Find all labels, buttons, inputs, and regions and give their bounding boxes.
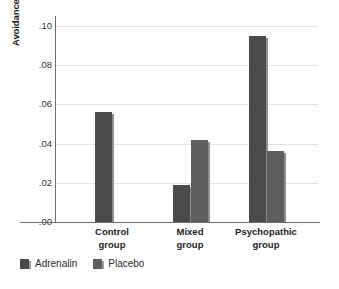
gridline (56, 65, 318, 66)
y-axis-line (55, 16, 56, 223)
bar-edge-highlight (208, 142, 211, 222)
bar-placebo-mixed-group (191, 140, 208, 222)
y-axis-tick-label: .02 (26, 178, 52, 188)
bar-edge-highlight (284, 153, 287, 222)
plot-area (56, 16, 318, 222)
legend-label: Adrenalin (35, 258, 77, 269)
avoidance-learning-bar-chart: Avoidance learning score .00.02.04.06.08… (0, 0, 339, 289)
bar-adrenalin-control-group (95, 112, 112, 222)
x-axis-line (20, 222, 320, 223)
bar-adrenalin-psychopathic-group (249, 36, 266, 222)
gridline (56, 104, 318, 105)
legend-swatch-icon (93, 259, 102, 269)
y-axis-tick-label: .10 (26, 21, 52, 31)
bar-placebo-psychopathic-group (267, 151, 284, 222)
legend-label: Placebo (108, 258, 144, 269)
y-axis-tick-label: .08 (26, 60, 52, 70)
group-label-line: Psychopathic (211, 226, 321, 239)
gridline (56, 26, 318, 27)
bar-edge-highlight (112, 114, 115, 222)
legend-item-adrenalin: Adrenalin (20, 258, 77, 269)
chart-legend: AdrenalinPlacebo (20, 258, 144, 269)
legend-swatch-icon (20, 259, 29, 269)
y-axis-tick-label: .04 (26, 139, 52, 149)
legend-item-placebo: Placebo (93, 258, 144, 269)
bar-adrenalin-mixed-group (173, 185, 190, 222)
group-label-line: group (211, 239, 321, 252)
x-axis-group-label: Psychopathicgroup (211, 226, 321, 251)
y-axis-tick-label: .06 (26, 99, 52, 109)
y-axis-tick-labels: .00.02.04.06.08.10 (22, 0, 52, 240)
